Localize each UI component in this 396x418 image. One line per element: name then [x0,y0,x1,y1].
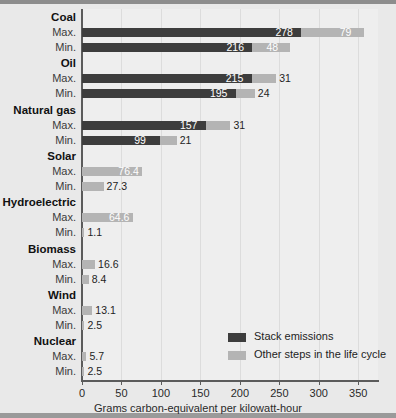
bar-value-other-steps: 2.5 [87,319,102,332]
x-axis-title: Grams carbon-equivalent per kilowatt-hou… [0,402,396,414]
bar-segment-other-steps [82,321,84,330]
x-tick [82,380,83,385]
category-label: Solar [0,150,76,162]
x-tick [240,380,241,385]
bar-value-stack-emissions: 99 [134,134,146,147]
gridline [279,9,280,380]
bar-value-stack-emissions: 278 [275,26,293,39]
row-label: Min. [0,226,76,238]
x-tick-label: 250 [270,387,288,399]
bar-value-stack-emissions: 216 [226,41,244,54]
bar-segment-other-steps [82,275,89,284]
x-tick [319,380,320,385]
gridline [200,9,201,380]
gridline [240,9,241,380]
bar-value-stack-emissions: 157 [180,119,198,132]
bar-segment-other-steps [236,89,255,98]
legend-swatch-stack-emissions [228,333,246,342]
category-label: Coal [0,11,76,23]
bar-value-stack-emissions: 215 [226,72,244,85]
legend-swatch-other-steps [228,351,246,360]
category-label: Wind [0,289,76,301]
bar-segment-other-steps [82,260,95,269]
bar-value-other-steps: 27.3 [107,180,127,193]
x-tick-label: 100 [152,387,170,399]
gridline [358,9,359,380]
category-label: Natural gas [0,104,76,116]
bar-segment-other-steps [206,121,230,130]
gridline [319,9,320,380]
x-axis-line [81,380,379,382]
category-label: Hydroelectric [0,196,76,208]
row-label: Min. [0,273,76,285]
bar-value-other-steps: 13.1 [95,304,115,317]
bar-value-other-steps: 16.6 [98,258,118,271]
x-tick-label: 200 [231,387,249,399]
row-label: Max. [0,165,76,177]
bar-segment-other-steps [82,228,84,237]
bar-segment-stack-emissions [82,28,301,37]
x-tick [279,380,280,385]
bar-segment-stack-emissions [82,136,160,145]
category-label: Biomass [0,243,76,255]
x-tick [121,380,122,385]
bar-value-other-steps: 64.6 [109,211,129,224]
bar-value-other-steps: 24 [258,87,270,100]
bar-value-stack-emissions: 195 [210,87,228,100]
x-tick-label: 50 [115,387,127,399]
bar-value-other-steps: 48 [266,41,278,54]
bar-segment-other-steps [82,182,104,191]
category-label: Nuclear [0,335,76,347]
bar-segment-other-steps [82,367,84,376]
bar-segment-other-steps [252,74,276,83]
row-label: Max. [0,258,76,270]
plot-area [82,9,378,380]
x-tick [358,380,359,385]
row-label: Min. [0,365,76,377]
row-label: Max. [0,26,76,38]
category-label: Oil [0,57,76,69]
x-tick-label: 350 [349,387,367,399]
legend-label-other-steps: Other steps in the life cycle [254,348,386,360]
bar-value-other-steps: 2.5 [87,365,102,378]
bar-value-other-steps: 8.4 [92,273,107,286]
page-top-edge [0,0,396,4]
bar-segment-other-steps [160,136,177,145]
bar-segment-other-steps [82,352,86,361]
row-label: Min. [0,180,76,192]
bar-value-other-steps: 31 [233,119,245,132]
x-tick-label: 0 [79,387,85,399]
legend-label-stack-emissions: Stack emissions [254,330,333,342]
bar-value-other-steps: 76.4 [118,165,138,178]
x-tick [161,380,162,385]
bar-segment-other-steps [301,28,363,37]
bar-value-other-steps: 21 [180,134,192,147]
row-label: Max. [0,211,76,223]
row-label: Min. [0,319,76,331]
x-tick-label: 150 [191,387,209,399]
row-label: Min. [0,134,76,146]
x-tick [200,380,201,385]
bar-value-other-steps: 1.1 [87,226,102,239]
bar-value-other-steps: 5.7 [89,350,104,363]
row-label: Max. [0,350,76,362]
bar-value-other-steps: 79 [340,26,352,39]
bar-value-other-steps: 31 [279,72,291,85]
row-label: Min. [0,41,76,53]
gridline [121,9,122,380]
row-label: Min. [0,87,76,99]
emissions-bar-chart: 050100150200250300350 CoalMax.Min.OilMax… [0,0,396,418]
row-label: Max. [0,119,76,131]
x-tick-label: 300 [310,387,328,399]
row-label: Max. [0,72,76,84]
gridline [161,9,162,380]
bar-segment-other-steps [82,306,92,315]
row-label: Max. [0,304,76,316]
